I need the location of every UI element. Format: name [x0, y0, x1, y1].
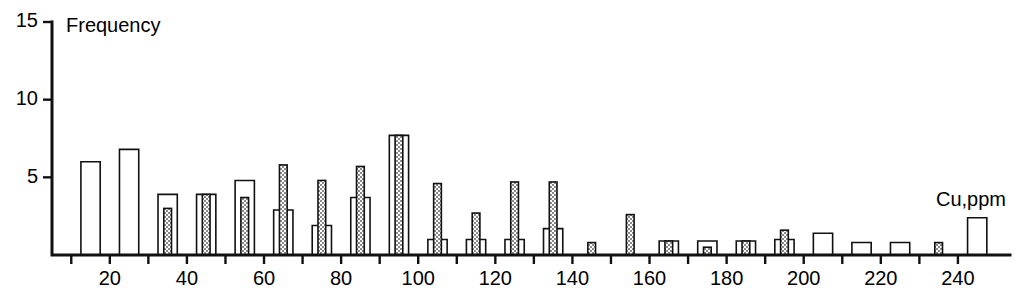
- histogram-bar-open: [81, 162, 100, 255]
- histogram-bar-hatched: [588, 243, 596, 255]
- histogram-svg: 5101520406080100120140160180200220240: [0, 0, 1030, 307]
- histogram-bar-open: [119, 149, 138, 255]
- y-tick-label: 10: [16, 87, 38, 109]
- x-tick-label: 80: [330, 267, 352, 289]
- histogram-bar-hatched: [202, 194, 210, 255]
- histogram-bar-hatched: [511, 182, 519, 255]
- histogram-figure: 5101520406080100120140160180200220240 Fr…: [0, 0, 1030, 307]
- histogram-bar-open: [890, 243, 909, 255]
- histogram-bar-hatched: [395, 135, 403, 255]
- x-tick-label: 40: [176, 267, 198, 289]
- histogram-bar-hatched: [626, 215, 634, 255]
- x-tick-label: 220: [864, 267, 897, 289]
- histogram-bar-hatched: [279, 165, 287, 255]
- histogram-bar-hatched: [241, 198, 249, 255]
- histogram-bar-open: [813, 233, 832, 255]
- histogram-bar-hatched: [472, 213, 480, 255]
- x-tick-label: 100: [402, 267, 435, 289]
- x-tick-label: 180: [710, 267, 743, 289]
- histogram-bar-hatched: [357, 166, 365, 255]
- histogram-bar-hatched: [549, 182, 557, 255]
- x-tick-label: 140: [556, 267, 589, 289]
- histogram-bar-hatched: [318, 180, 326, 255]
- x-tick-label: 160: [633, 267, 666, 289]
- histogram-bar-hatched: [665, 241, 673, 255]
- histogram-bar-hatched: [434, 184, 442, 255]
- x-tick-label: 60: [253, 267, 275, 289]
- y-tick-label: 5: [27, 165, 38, 187]
- axes-group: [43, 22, 1010, 264]
- x-tick-label: 240: [941, 267, 974, 289]
- histogram-bar-hatched: [935, 243, 943, 255]
- histogram-bar-open: [852, 243, 871, 255]
- y-tick-label: 15: [16, 9, 38, 31]
- x-tick-label: 20: [99, 267, 121, 289]
- histogram-bar-open: [968, 218, 987, 255]
- x-tick-label: 120: [479, 267, 512, 289]
- histogram-bar-hatched: [164, 208, 172, 255]
- histogram-bar-hatched: [781, 230, 789, 255]
- x-tick-label: 200: [787, 267, 820, 289]
- open-bars-group: [81, 135, 987, 255]
- histogram-bar-hatched: [742, 241, 750, 255]
